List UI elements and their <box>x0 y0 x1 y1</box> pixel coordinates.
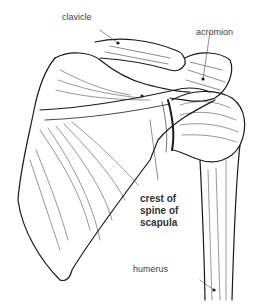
label-humerus: humerus <box>133 264 168 274</box>
label-line: scapula <box>140 217 200 229</box>
anatomy-figure: clavicle acromion crest of spine of scap… <box>0 0 267 308</box>
label-crest-of-spine-of-scapula: crest of spine of scapula <box>140 193 200 229</box>
label-line: crest of <box>140 193 200 205</box>
label-clavicle: clavicle <box>62 12 92 22</box>
label-acromion: acromion <box>196 27 233 37</box>
label-line: spine of <box>140 205 200 217</box>
shoulder-illustration <box>0 0 267 308</box>
